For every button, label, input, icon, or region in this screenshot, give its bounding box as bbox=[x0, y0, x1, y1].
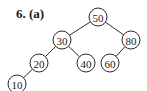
tree-node-40: 40 bbox=[77, 54, 95, 72]
tree-node-20: 20 bbox=[30, 54, 48, 72]
node-label: 60 bbox=[105, 58, 117, 70]
edge-20-10 bbox=[24, 69, 33, 78]
edge-80-60 bbox=[116, 47, 125, 57]
tree-node-30: 30 bbox=[53, 31, 71, 49]
node-label: 30 bbox=[57, 35, 69, 47]
node-label: 80 bbox=[126, 35, 138, 47]
node-label: 40 bbox=[81, 58, 93, 70]
edge-50-30 bbox=[70, 22, 91, 35]
node-label: 50 bbox=[93, 12, 105, 24]
tree-nodes: 50308020406010 bbox=[8, 8, 140, 91]
edge-30-20 bbox=[45, 46, 55, 56]
edge-30-40 bbox=[68, 46, 79, 57]
node-label: 10 bbox=[12, 79, 24, 91]
binary-tree-diagram: 50308020406010 bbox=[0, 0, 147, 91]
tree-node-10: 10 bbox=[8, 75, 26, 91]
tree-node-60: 60 bbox=[101, 54, 119, 72]
tree-node-50: 50 bbox=[89, 8, 107, 26]
tree-node-80: 80 bbox=[122, 31, 140, 49]
node-label: 20 bbox=[34, 58, 46, 70]
edge-50-80 bbox=[105, 22, 123, 35]
